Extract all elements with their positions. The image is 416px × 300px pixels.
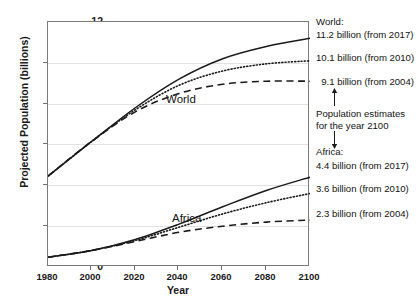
annotation-africa-heading: Africa: bbox=[316, 146, 343, 157]
x-tick-label-2060: 2060 bbox=[196, 272, 246, 282]
annotation-world-2017: 11.2 billion (from 2017) bbox=[316, 29, 413, 40]
series-label-africa: Africa bbox=[172, 212, 201, 224]
annotation-africa-2017: 4.4 billion (from 2017) bbox=[316, 160, 409, 171]
x-axis-label: Year bbox=[47, 284, 309, 296]
x-tick-mark-2060 bbox=[221, 266, 222, 270]
series-line-africa-2004 bbox=[48, 220, 310, 257]
x-tick-label-2080: 2080 bbox=[240, 272, 290, 282]
annotation-africa-2010: 3.6 billion (from 2010) bbox=[316, 183, 409, 194]
x-tick-mark-2020 bbox=[134, 266, 135, 270]
annotation-world-heading: World: bbox=[316, 16, 344, 27]
arrow-up-glyph bbox=[330, 88, 339, 106]
x-tick-label-2100: 2100 bbox=[284, 272, 334, 282]
annotation-world-2004: 9.1 billion (from 2004) bbox=[316, 76, 414, 87]
chart-figure: Projected Population (billions) 12 10 8 … bbox=[0, 0, 416, 300]
x-tick-mark-2040 bbox=[177, 266, 178, 270]
annotation-world-2010: 10.1 billion (from 2010) bbox=[316, 52, 414, 63]
series-line-world-2010 bbox=[48, 61, 310, 176]
plot-area: World Africa bbox=[47, 21, 309, 266]
series-lines bbox=[48, 22, 310, 267]
annotation-note-line1: Population estimates bbox=[316, 108, 414, 120]
series-line-africa-2010 bbox=[48, 194, 310, 258]
x-tick-label-2000: 2000 bbox=[65, 272, 115, 282]
x-tick-label-2040: 2040 bbox=[152, 272, 202, 282]
annotation-note-line2: for the year 2100 bbox=[316, 120, 414, 132]
x-tick-mark-2080 bbox=[265, 266, 266, 270]
annotation-note: Population estimates for the year 2100 bbox=[316, 108, 414, 131]
y-axis-label: Projected Population (billions) bbox=[18, 12, 30, 212]
series-line-world-2017 bbox=[48, 38, 310, 176]
series-label-world: World bbox=[166, 93, 196, 105]
annotation-africa-2004: 2.3 billion (from 2004) bbox=[316, 208, 409, 219]
x-tick-mark-2000 bbox=[90, 266, 91, 270]
arrow-up-icon bbox=[330, 88, 339, 110]
